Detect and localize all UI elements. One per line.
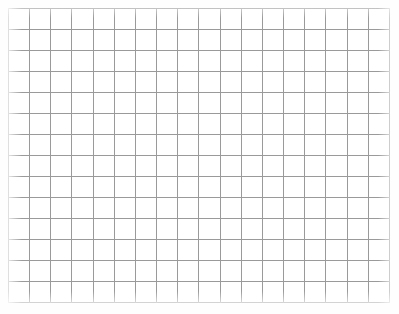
grid-cell[interactable] — [263, 30, 284, 51]
grid-cell[interactable] — [9, 198, 30, 219]
grid-cell[interactable] — [9, 135, 30, 156]
grid-cell[interactable] — [136, 198, 157, 219]
grid-cell[interactable] — [369, 51, 390, 72]
grid-cell[interactable] — [369, 135, 390, 156]
grid-cell[interactable] — [199, 135, 220, 156]
grid-cell[interactable] — [51, 261, 72, 282]
grid-cell[interactable] — [242, 156, 263, 177]
grid-cell[interactable] — [30, 177, 51, 198]
grid-cell[interactable] — [9, 177, 30, 198]
grid-cell[interactable] — [51, 219, 72, 240]
grid-cell[interactable] — [348, 30, 369, 51]
grid-cell[interactable] — [115, 261, 136, 282]
grid-cell[interactable] — [326, 198, 347, 219]
grid-cell[interactable] — [221, 135, 242, 156]
grid-cell[interactable] — [305, 72, 326, 93]
grid-cell[interactable] — [305, 198, 326, 219]
grid-cell[interactable] — [136, 156, 157, 177]
grid-cell[interactable] — [221, 51, 242, 72]
grid-cell[interactable] — [94, 177, 115, 198]
grid-cell[interactable] — [94, 261, 115, 282]
grid-cell[interactable] — [136, 114, 157, 135]
grid-cell[interactable] — [9, 282, 30, 303]
grid-cell[interactable] — [115, 156, 136, 177]
grid-cell[interactable] — [199, 261, 220, 282]
grid-cell[interactable] — [136, 282, 157, 303]
grid-cell[interactable] — [115, 30, 136, 51]
grid-cell[interactable] — [199, 51, 220, 72]
grid-cell[interactable] — [115, 114, 136, 135]
grid-cell[interactable] — [305, 240, 326, 261]
grid-cell[interactable] — [178, 261, 199, 282]
grid-cell[interactable] — [263, 282, 284, 303]
grid-cell[interactable] — [242, 9, 263, 30]
grid-cell[interactable] — [221, 198, 242, 219]
grid-cell[interactable] — [242, 72, 263, 93]
grid-cell[interactable] — [305, 30, 326, 51]
grid-cell[interactable] — [9, 261, 30, 282]
grid-cell[interactable] — [305, 219, 326, 240]
grid-cell[interactable] — [157, 114, 178, 135]
grid-cell[interactable] — [221, 261, 242, 282]
grid-cell[interactable] — [305, 93, 326, 114]
grid-cell[interactable] — [263, 114, 284, 135]
grid-cell[interactable] — [51, 9, 72, 30]
grid-cell[interactable] — [178, 9, 199, 30]
grid-cell[interactable] — [94, 93, 115, 114]
grid-cell[interactable] — [221, 9, 242, 30]
grid-cell[interactable] — [221, 177, 242, 198]
grid-cell[interactable] — [326, 114, 347, 135]
grid-cell[interactable] — [157, 198, 178, 219]
grid-cell[interactable] — [242, 30, 263, 51]
grid-cell[interactable] — [326, 240, 347, 261]
grid-cell[interactable] — [136, 240, 157, 261]
grid-cell[interactable] — [72, 9, 93, 30]
grid-cell[interactable] — [136, 30, 157, 51]
grid-cell[interactable] — [136, 135, 157, 156]
grid-table[interactable] — [8, 8, 390, 303]
grid-cell[interactable] — [178, 114, 199, 135]
grid-cell[interactable] — [348, 198, 369, 219]
grid-cell[interactable] — [284, 51, 305, 72]
grid-cell[interactable] — [199, 282, 220, 303]
grid-cell[interactable] — [199, 30, 220, 51]
grid-cell[interactable] — [72, 240, 93, 261]
grid-cell[interactable] — [178, 72, 199, 93]
grid-cell[interactable] — [51, 198, 72, 219]
grid-cell[interactable] — [94, 30, 115, 51]
grid-cell[interactable] — [348, 135, 369, 156]
grid-cell[interactable] — [263, 156, 284, 177]
grid-cell[interactable] — [284, 114, 305, 135]
grid-cell[interactable] — [242, 135, 263, 156]
grid-cell[interactable] — [30, 9, 51, 30]
grid-cell[interactable] — [199, 114, 220, 135]
grid-cell[interactable] — [242, 219, 263, 240]
grid-cell[interactable] — [305, 282, 326, 303]
grid-cell[interactable] — [157, 51, 178, 72]
grid-cell[interactable] — [72, 114, 93, 135]
grid-cell[interactable] — [284, 9, 305, 30]
grid-cell[interactable] — [221, 219, 242, 240]
grid-cell[interactable] — [94, 240, 115, 261]
grid-cell[interactable] — [369, 30, 390, 51]
grid-cell[interactable] — [326, 282, 347, 303]
grid-cell[interactable] — [305, 9, 326, 30]
grid-cell[interactable] — [326, 219, 347, 240]
grid-cell[interactable] — [326, 72, 347, 93]
grid-cell[interactable] — [157, 282, 178, 303]
grid-cell[interactable] — [30, 93, 51, 114]
grid-cell[interactable] — [199, 9, 220, 30]
grid-cell[interactable] — [72, 51, 93, 72]
grid-cell[interactable] — [72, 156, 93, 177]
grid-cell[interactable] — [305, 261, 326, 282]
grid-cell[interactable] — [326, 177, 347, 198]
grid-cell[interactable] — [221, 114, 242, 135]
grid-cell[interactable] — [284, 135, 305, 156]
grid-cell[interactable] — [9, 219, 30, 240]
grid-cell[interactable] — [30, 219, 51, 240]
grid-cell[interactable] — [369, 261, 390, 282]
grid-cell[interactable] — [348, 114, 369, 135]
grid-cell[interactable] — [369, 240, 390, 261]
grid-cell[interactable] — [221, 240, 242, 261]
grid-cell[interactable] — [94, 72, 115, 93]
